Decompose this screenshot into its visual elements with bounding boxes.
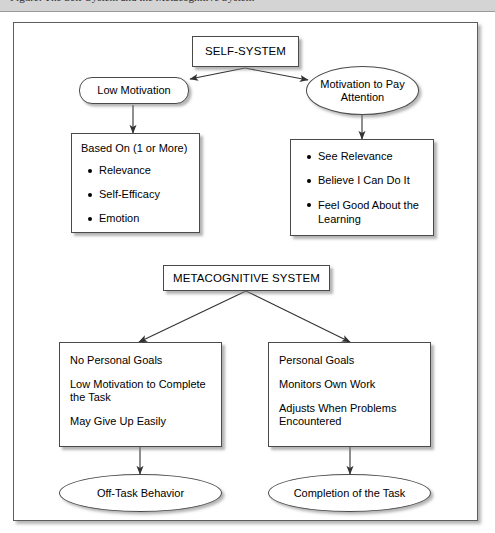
list-item: No Personal Goals xyxy=(70,354,211,367)
list-item: Adjusts When Problems Encountered xyxy=(279,402,420,428)
list-item: See Relevance xyxy=(318,150,424,163)
node-off-task-behavior[interactable]: Off-Task Behavior xyxy=(59,474,222,512)
based-on-heading: Based On (1 or More) xyxy=(81,142,187,155)
figure-caption: Figure: The Self-System and the Metacogn… xyxy=(10,0,254,3)
node-off-task-behavior-label: Off-Task Behavior xyxy=(97,487,184,500)
node-based-on-box[interactable]: Based On (1 or More) Relevance Self-Effi… xyxy=(71,133,200,233)
node-self-system[interactable]: SELF-SYSTEM xyxy=(192,36,299,67)
node-low-motivation[interactable]: Low Motivation xyxy=(79,77,189,104)
node-positive-outcomes-box[interactable]: Personal Goals Monitors Own Work Adjusts… xyxy=(268,342,431,447)
node-negative-outcomes-box[interactable]: No Personal Goals Low Motivation to Comp… xyxy=(59,342,222,447)
node-self-system-label: SELF-SYSTEM xyxy=(205,45,286,58)
node-completion-of-task[interactable]: Completion of the Task xyxy=(268,474,431,512)
node-metacognitive-system-label: METACOGNITIVE SYSTEM xyxy=(173,272,320,285)
node-positive-selfsystem-box[interactable]: See Relevance Believe I Can Do It Feel G… xyxy=(290,139,434,236)
negative-outcomes-lines: No Personal Goals Low Motivation to Comp… xyxy=(70,354,211,428)
page-header-band: Figure: The Self-System and the Metacogn… xyxy=(0,0,495,12)
list-item: Low Motivation to Complete the Task xyxy=(70,378,211,404)
node-completion-of-task-label: Completion of the Task xyxy=(294,487,406,500)
node-motivation-to-pay-attention[interactable]: Motivation to Pay Attention xyxy=(306,66,419,115)
list-item: Relevance xyxy=(99,164,160,177)
list-item: Emotion xyxy=(99,212,160,225)
list-item: Self-Efficacy xyxy=(99,188,160,201)
list-item: Feel Good About the Learning xyxy=(318,198,424,226)
positive-selfsystem-bullet-list: See Relevance Believe I Can Do It Feel G… xyxy=(300,150,424,226)
list-item: Monitors Own Work xyxy=(279,378,420,391)
node-low-motivation-label: Low Motivation xyxy=(97,84,170,97)
node-motivation-line-2: Attention xyxy=(341,91,384,104)
list-item: May Give Up Easily xyxy=(70,415,211,428)
list-item: Believe I Can Do It xyxy=(318,174,424,187)
based-on-bullet-list: Relevance Self-Efficacy Emotion xyxy=(81,164,160,225)
positive-outcomes-lines: Personal Goals Monitors Own Work Adjusts… xyxy=(279,354,420,428)
node-motivation-line-1: Motivation to Pay xyxy=(320,78,404,91)
list-item: Personal Goals xyxy=(279,354,420,367)
node-metacognitive-system[interactable]: METACOGNITIVE SYSTEM xyxy=(163,265,330,291)
